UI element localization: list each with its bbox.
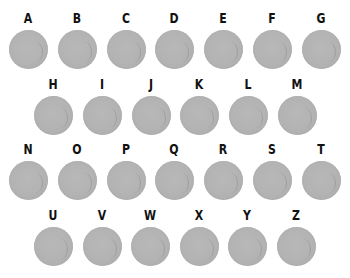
circle-shading (78, 42, 92, 62)
circle-shading (200, 239, 214, 259)
gray-circle[interactable] (107, 161, 146, 200)
circle-shading (297, 239, 311, 259)
gray-circle[interactable] (278, 96, 317, 135)
letter-cell-j[interactable]: J (129, 76, 173, 146)
letter-cell-r[interactable]: R (201, 141, 245, 211)
circle-shading (29, 173, 43, 193)
letter-label: O (60, 141, 94, 157)
letter-label: X (182, 207, 216, 223)
gray-circle[interactable] (180, 227, 219, 266)
letter-cell-w[interactable]: W (128, 207, 172, 277)
letter-cell-m[interactable]: M (275, 76, 319, 146)
gray-circle[interactable] (155, 30, 194, 69)
letter-label: P (109, 141, 143, 157)
circle-shading (54, 239, 68, 259)
gray-circle[interactable] (132, 96, 171, 135)
circle-shading (249, 108, 263, 128)
gray-circle[interactable] (107, 30, 146, 69)
letter-cell-n[interactable]: N (6, 141, 50, 211)
circle-shading (54, 108, 68, 128)
letter-label: T (304, 141, 338, 157)
letter-cell-y[interactable]: Y (225, 207, 269, 277)
letter-label: R (206, 141, 240, 157)
letter-cell-d[interactable]: D (152, 10, 196, 80)
letter-cell-c[interactable]: C (104, 10, 148, 80)
gray-circle[interactable] (229, 96, 268, 135)
gray-circle[interactable] (9, 161, 48, 200)
gray-circle[interactable] (277, 227, 316, 266)
circle-shading (273, 42, 287, 62)
gray-circle[interactable] (58, 30, 97, 69)
gray-circle[interactable] (155, 161, 194, 200)
letter-label: K (182, 76, 216, 92)
letter-cell-a[interactable]: A (6, 10, 50, 80)
circle-shading (200, 108, 214, 128)
letter-cell-h[interactable]: H (31, 76, 75, 146)
gray-circle[interactable] (228, 227, 267, 266)
letter-cell-l[interactable]: L (226, 76, 270, 146)
letter-label: U (36, 207, 70, 223)
letter-label: D (157, 10, 191, 26)
letter-cell-e[interactable]: E (201, 10, 245, 80)
letter-label: S (255, 141, 289, 157)
circle-shading (224, 42, 238, 62)
letter-cell-v[interactable]: V (80, 207, 124, 277)
circle-shading (273, 173, 287, 193)
gray-circle[interactable] (302, 161, 341, 200)
circle-shading (175, 173, 189, 193)
circle-shading (127, 42, 141, 62)
letter-cell-o[interactable]: O (55, 141, 99, 211)
letter-cell-f[interactable]: F (250, 10, 294, 80)
letter-cell-s[interactable]: S (250, 141, 294, 211)
gray-circle[interactable] (9, 30, 48, 69)
gray-circle[interactable] (253, 30, 292, 69)
circle-shading (175, 42, 189, 62)
gray-circle[interactable] (180, 96, 219, 135)
circle-shading (78, 173, 92, 193)
letter-label: C (109, 10, 143, 26)
letter-label: Q (157, 141, 191, 157)
gray-circle[interactable] (253, 161, 292, 200)
letter-label: L (231, 76, 265, 92)
letter-label: I (85, 76, 119, 92)
letter-label: E (206, 10, 240, 26)
gray-circle[interactable] (302, 30, 341, 69)
circle-shading (151, 239, 165, 259)
letter-label: B (60, 10, 94, 26)
gray-circle[interactable] (34, 227, 73, 266)
gray-circle[interactable] (131, 227, 170, 266)
circle-shading (248, 239, 262, 259)
letter-cell-u[interactable]: U (31, 207, 75, 277)
gray-circle[interactable] (58, 161, 97, 200)
letter-label: A (11, 10, 45, 26)
circle-shading (103, 108, 117, 128)
gray-circle[interactable] (204, 161, 243, 200)
gray-circle[interactable] (83, 96, 122, 135)
circle-shading (152, 108, 166, 128)
letter-cell-z[interactable]: Z (274, 207, 318, 277)
circle-shading (127, 173, 141, 193)
letter-label: W (133, 207, 167, 223)
letter-label: M (280, 76, 314, 92)
circle-shading (224, 173, 238, 193)
gray-circle[interactable] (34, 96, 73, 135)
letter-label: H (36, 76, 70, 92)
letter-label: J (134, 76, 168, 92)
letter-label: F (255, 10, 289, 26)
letter-label: N (11, 141, 45, 157)
letter-cell-x[interactable]: X (177, 207, 221, 277)
circle-shading (322, 173, 336, 193)
circle-shading (322, 42, 336, 62)
letter-label: Y (230, 207, 264, 223)
letter-cell-k[interactable]: K (177, 76, 221, 146)
gray-circle[interactable] (83, 227, 122, 266)
letter-label: V (85, 207, 119, 223)
letter-cell-b[interactable]: B (55, 10, 99, 80)
gray-circle[interactable] (204, 30, 243, 69)
letter-cell-p[interactable]: P (104, 141, 148, 211)
letter-cell-g[interactable]: G (299, 10, 343, 80)
circle-shading (103, 239, 117, 259)
letter-cell-q[interactable]: Q (152, 141, 196, 211)
letter-cell-t[interactable]: T (299, 141, 343, 211)
letter-cell-i[interactable]: I (80, 76, 124, 146)
